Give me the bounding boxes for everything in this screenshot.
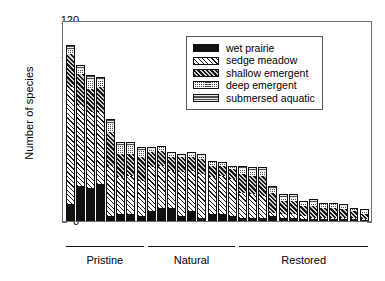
bar-segment bbox=[279, 201, 288, 214]
bar-segment bbox=[86, 188, 95, 222]
bar bbox=[76, 65, 85, 221]
bar-segment bbox=[238, 218, 247, 221]
bar-segment bbox=[339, 209, 348, 217]
legend-swatch bbox=[193, 81, 219, 89]
bar-segment bbox=[289, 201, 298, 214]
legend-item: wet prairie bbox=[193, 42, 315, 54]
bar bbox=[350, 208, 359, 221]
legend-label: submersed aquatic bbox=[226, 93, 315, 104]
bar-segment bbox=[157, 151, 166, 166]
bar-segment bbox=[268, 216, 277, 221]
bar-segment bbox=[329, 219, 338, 221]
bar-segment bbox=[86, 112, 95, 187]
bar-segment bbox=[106, 132, 115, 166]
bar-segment bbox=[258, 196, 267, 218]
legend-item: sedge meadow bbox=[193, 54, 315, 66]
bar-segment bbox=[126, 176, 135, 215]
bar-segment bbox=[218, 176, 227, 215]
bar-segment bbox=[167, 208, 176, 221]
bar-segment bbox=[279, 218, 288, 221]
group-underline bbox=[66, 246, 144, 247]
bar-segment bbox=[116, 154, 125, 177]
bar bbox=[360, 209, 369, 221]
bar-segment bbox=[309, 206, 318, 218]
group-label-text: Natural bbox=[174, 254, 209, 266]
legend-item: shallow emergent bbox=[193, 67, 315, 79]
bar bbox=[208, 161, 217, 221]
bar bbox=[106, 119, 115, 221]
bar-segment bbox=[86, 80, 95, 88]
bar-segment bbox=[299, 206, 308, 216]
stacked-bar-chart-figure: Number of species 020406080100120 wet pr… bbox=[0, 0, 385, 281]
bar-segment bbox=[126, 154, 135, 176]
bar bbox=[329, 203, 338, 221]
bar-segment bbox=[218, 166, 227, 176]
bar-segment bbox=[167, 171, 176, 208]
bar-segment bbox=[238, 193, 247, 218]
bar-segment bbox=[76, 105, 85, 185]
bar bbox=[228, 166, 237, 221]
y-axis-title: Number of species bbox=[23, 28, 35, 198]
group-label-text: Pristine bbox=[86, 254, 123, 266]
bar-segment bbox=[76, 74, 85, 106]
bar-segment bbox=[208, 177, 217, 214]
bar-segment bbox=[228, 179, 237, 216]
bar-segment bbox=[177, 157, 186, 172]
bar-segment bbox=[208, 166, 217, 178]
bar-segment bbox=[147, 152, 156, 167]
bar-segment bbox=[309, 219, 318, 221]
bar bbox=[86, 75, 95, 221]
bar-segment bbox=[96, 112, 105, 184]
group-label-restored: Restored bbox=[239, 246, 368, 268]
bar-segment bbox=[319, 208, 328, 218]
bar-segment bbox=[137, 216, 146, 221]
bar-segment bbox=[258, 218, 267, 221]
bar-segment bbox=[350, 219, 359, 221]
legend-item: submersed aquatic bbox=[193, 92, 315, 104]
bar bbox=[187, 152, 196, 221]
group-label-pristine: Pristine bbox=[66, 246, 144, 268]
bar-segment bbox=[187, 157, 196, 170]
bar-segment bbox=[106, 216, 115, 221]
bar-segment bbox=[339, 219, 348, 221]
bar-segment bbox=[116, 214, 125, 221]
bar-segment bbox=[228, 216, 237, 221]
bar bbox=[177, 154, 186, 221]
bar-segment bbox=[248, 218, 257, 221]
bar-segment bbox=[289, 218, 298, 221]
legend-label: shallow emergent bbox=[226, 68, 308, 79]
bar-segment bbox=[76, 186, 85, 221]
bar-segment bbox=[86, 89, 95, 112]
group-underline bbox=[239, 246, 368, 247]
bar bbox=[66, 45, 75, 221]
bar bbox=[197, 154, 206, 221]
bar-segment bbox=[157, 208, 166, 221]
bar-segment bbox=[299, 219, 308, 221]
bar bbox=[289, 194, 298, 221]
bar-segment bbox=[208, 214, 217, 221]
bar-segment bbox=[187, 211, 196, 221]
bar-segment bbox=[319, 219, 328, 221]
bar-segment bbox=[116, 177, 125, 214]
legend: wet prairiesedge meadowshallow emergentd… bbox=[186, 36, 323, 110]
bar bbox=[339, 204, 348, 221]
bar-segment bbox=[218, 214, 227, 221]
bar-segment bbox=[268, 193, 277, 213]
bar bbox=[319, 203, 328, 221]
bar-segment bbox=[248, 194, 257, 217]
bar-segment bbox=[350, 211, 359, 218]
bar bbox=[157, 146, 166, 221]
bar bbox=[309, 199, 318, 221]
bar-segment bbox=[116, 146, 125, 154]
group-label-text: Restored bbox=[281, 254, 326, 266]
bar-segment bbox=[197, 159, 206, 174]
legend-label: deep emergent bbox=[226, 80, 297, 91]
bar-segment bbox=[106, 124, 115, 132]
bar-segment bbox=[96, 80, 105, 87]
bar-segment bbox=[66, 87, 75, 204]
bar bbox=[258, 167, 267, 221]
bar-segment bbox=[157, 166, 166, 208]
bar bbox=[167, 152, 176, 221]
legend-label: sedge meadow bbox=[226, 55, 297, 66]
bar-segment bbox=[238, 174, 247, 192]
